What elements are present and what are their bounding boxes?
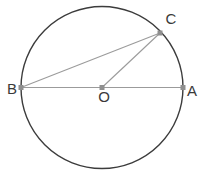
vertex-marker-a <box>181 85 186 90</box>
circle-geometry-svg: B O A C <box>0 0 202 186</box>
vertex-label-o: O <box>98 88 110 105</box>
vertex-marker-c <box>158 31 163 36</box>
vertex-marker-b <box>19 85 24 90</box>
radius-segment-oc <box>102 33 160 88</box>
geometry-figure: B O A C <box>0 0 202 186</box>
vertex-label-b: B <box>7 80 17 97</box>
chord-segment-bc <box>21 33 160 88</box>
vertex-label-c: C <box>166 10 177 27</box>
vertex-label-a: A <box>187 82 197 99</box>
